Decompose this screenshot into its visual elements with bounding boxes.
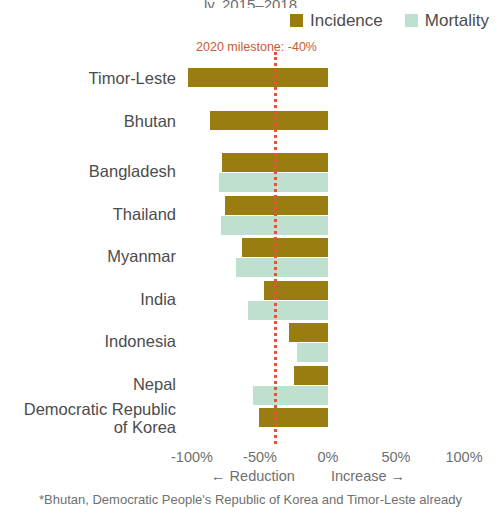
chart-container: ly, 2015–2018 Incidence Mortality 2020 m…: [0, 0, 501, 517]
bar-incidence[interactable]: [259, 408, 328, 427]
axis-direction-increase: Increase →: [331, 468, 405, 484]
x-axis-tick-2: 0%: [318, 449, 339, 465]
legend-swatch-mortality: [405, 14, 418, 27]
bar-incidence[interactable]: [188, 68, 328, 87]
legend-swatch-incidence: [290, 14, 303, 27]
legend-item-incidence[interactable]: Incidence: [290, 12, 383, 29]
chart-title-sliver: ly, 2015–2018: [0, 0, 501, 8]
axis-direction-reduction: ← Reduction: [211, 468, 295, 484]
x-axis-tick-0: -100%: [171, 449, 213, 465]
axis-direction-row: ← Reduction Increase →: [0, 468, 501, 488]
bar-incidence[interactable]: [294, 366, 328, 385]
plot-area: Timor-LesteBhutanBangladeshThailandMyanm…: [0, 60, 501, 445]
bar-incidence[interactable]: [242, 238, 328, 257]
category-label-nepal: Nepal: [0, 375, 176, 393]
legend-item-mortality[interactable]: Mortality: [405, 12, 489, 29]
bar-mortality[interactable]: [248, 301, 328, 320]
category-label-thailand: Thailand: [0, 205, 176, 223]
chart-row: Myanmar: [0, 238, 501, 281]
x-axis-tick-4: 100%: [445, 449, 482, 465]
x-axis-tick-1: -50%: [243, 449, 277, 465]
chart-row: India: [0, 281, 501, 324]
chart-row: Timor-Leste: [0, 68, 501, 111]
chart-legend: Incidence Mortality: [290, 12, 489, 29]
milestone-vline: [274, 52, 277, 444]
chart-row: Indonesia: [0, 323, 501, 366]
bar-mortality[interactable]: [297, 343, 328, 362]
bar-incidence[interactable]: [210, 111, 328, 130]
category-label-democratic-republic-of-korea: Democratic Republic of Korea: [0, 400, 176, 437]
chart-row: Thailand: [0, 196, 501, 239]
category-label-timor-leste: Timor-Leste: [0, 69, 176, 87]
bar-mortality[interactable]: [253, 386, 328, 405]
bar-mortality[interactable]: [236, 258, 328, 277]
chart-footnote: *Bhutan, Democratic People's Republic of…: [0, 492, 501, 507]
legend-label-mortality: Mortality: [425, 12, 489, 29]
chart-row: Bhutan: [0, 111, 501, 154]
milestone-annotation-label: 2020 milestone: -40%: [0, 40, 501, 54]
category-label-indonesia: Indonesia: [0, 332, 176, 350]
category-label-bangladesh: Bangladesh: [0, 162, 176, 180]
x-axis-tick-3: 50%: [381, 449, 410, 465]
x-axis: -100%-50%0%50%100%: [0, 449, 501, 469]
legend-label-incidence: Incidence: [310, 12, 383, 29]
chart-row: Bangladesh: [0, 153, 501, 196]
category-label-bhutan: Bhutan: [0, 112, 176, 130]
category-label-myanmar: Myanmar: [0, 247, 176, 265]
bar-incidence[interactable]: [289, 323, 328, 342]
category-label-india: India: [0, 290, 176, 308]
chart-row: Democratic Republic of Korea: [0, 408, 501, 451]
